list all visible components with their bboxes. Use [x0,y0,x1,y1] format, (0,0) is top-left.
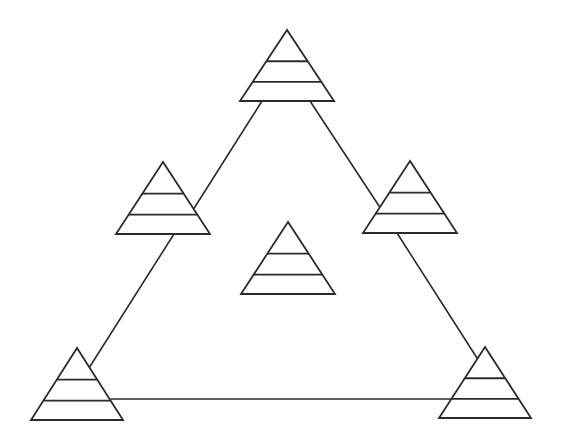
triangle-of-pyramids-diagram [0,0,564,447]
pyramid-outline [241,222,335,294]
pyramid-outline [240,30,334,101]
pyramid-outline [363,161,457,233]
pyramid-right-middle [363,161,457,233]
pyramid-outline [116,162,210,234]
edge-top-to-right-mid [310,101,381,209]
pyramid-outline [31,348,123,420]
edge-right-mid-to-bottom-right [397,233,477,358]
pyramid-center [241,222,335,294]
pyramid-left-middle [116,162,210,234]
edge-left-mid-to-bottom-left [89,234,174,368]
pyramid-bottom-left [31,348,123,420]
edge-top-to-left-mid [193,101,262,210]
pyramid-group [31,30,531,420]
pyramid-bottom-right [439,347,531,418]
pyramid-outline [439,347,531,418]
pyramid-top [240,30,334,101]
